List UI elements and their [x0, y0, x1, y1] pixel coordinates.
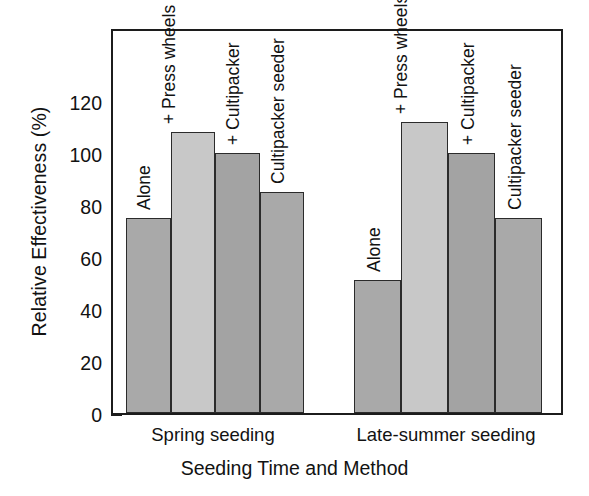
plot-area: Alone+ Press wheels+ CultipackerCultipac…: [111, 29, 563, 415]
bar-label-cultipacker-seeder-group-2: Cultipacker seeder: [506, 64, 525, 210]
bar-label-cultipacker-group-1: + Cultipacker: [224, 42, 243, 145]
bar-alone-group-2: [354, 280, 401, 413]
bar-cultipacker-seeder-group-2: [495, 218, 542, 413]
bars-layer: Alone+ Press wheels+ CultipackerCultipac…: [113, 31, 561, 413]
bar-alone-group-1: [126, 218, 171, 413]
bar-label-cultipacker-group-2: + Cultipacker: [459, 42, 478, 145]
y-tick-label: 40: [42, 300, 102, 323]
bar-label-alone-group-2: Alone: [365, 228, 384, 273]
x-axis-title: Seeding Time and Method: [0, 457, 589, 480]
y-tick-label: 60: [42, 248, 102, 271]
y-tick-label: 80: [42, 196, 102, 219]
bar-label-press-wheels-group-1: + Press wheels: [160, 0, 179, 124]
bar-label-cultipacker-seeder-group-1: Cultipacker seeder: [269, 38, 288, 184]
bar-press-wheels-group-2: [401, 122, 448, 413]
bar-cultipacker-group-2: [448, 153, 495, 413]
bar-cultipacker-group-1: [215, 153, 260, 413]
y-tick-label: 120: [42, 92, 102, 115]
y-tick-label: 100: [42, 144, 102, 167]
chart-figure: Relative Effectiveness (%) 1201008060402…: [0, 0, 589, 496]
bar-cultipacker-seeder-group-1: [260, 192, 305, 413]
bar-label-alone-group-1: Alone: [135, 165, 154, 210]
y-tick-label: 20: [42, 352, 102, 375]
bar-press-wheels-group-1: [171, 132, 216, 413]
bar-label-press-wheels-group-2: + Press wheels: [392, 0, 411, 114]
x-axis-group-label-late-summer: Late-summer seeding: [296, 424, 589, 446]
